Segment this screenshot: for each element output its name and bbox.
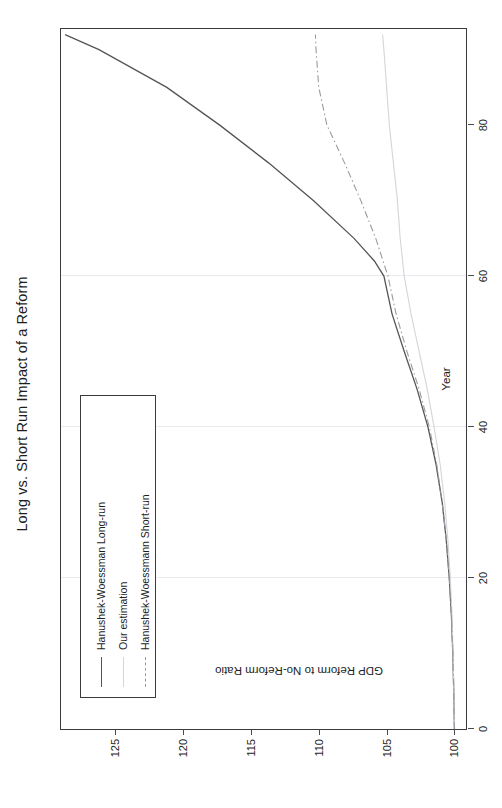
x-tick-label: 60 <box>477 270 489 282</box>
x-tick <box>468 577 474 578</box>
x-tick <box>468 426 474 427</box>
y-tick-label: 120 <box>177 739 189 757</box>
x-tick-label: 0 <box>477 726 489 732</box>
y-tick <box>115 729 116 735</box>
x-tick <box>468 124 474 125</box>
chart-page: Long vs. Short Run Impact of a Reform 02… <box>0 0 502 808</box>
y-tick <box>387 729 388 735</box>
legend-item: Our estimation <box>117 582 129 687</box>
legend-item: Hanushek-Woessmann Short-run <box>139 494 151 687</box>
y-tick-label: 100 <box>448 739 460 757</box>
y-tick <box>319 729 320 735</box>
chart-legend: Hanushek-Woessman Long-runOur estimation… <box>80 395 156 698</box>
chart-title: Long vs. Short Run Impact of a Reform <box>14 0 30 808</box>
y-tick-label: 115 <box>245 739 257 757</box>
x-tick-label: 20 <box>477 572 489 584</box>
x-tick <box>468 728 474 729</box>
y-tick-label: 105 <box>381 739 393 757</box>
x-tick-label: 40 <box>477 421 489 433</box>
series-line-2 <box>315 35 454 729</box>
y-tick-label: 110 <box>313 739 325 757</box>
y-tick-label: 125 <box>109 739 121 757</box>
x-tick <box>468 275 474 276</box>
x-axis-title: Year <box>440 28 452 730</box>
y-tick <box>183 729 184 735</box>
legend-item-label: Hanushek-Woessmann Short-run <box>139 494 151 650</box>
y-tick <box>251 729 252 735</box>
y-tick <box>454 729 455 735</box>
legend-item: Hanushek-Woessman Long-run <box>95 502 107 687</box>
legend-item-label: Hanushek-Woessman Long-run <box>95 502 107 650</box>
y-axis-title: GDP Reform to No-Reform Ratio <box>149 665 449 677</box>
rotated-chart-wrapper: Long vs. Short Run Impact of a Reform 02… <box>0 0 502 808</box>
x-tick-label: 80 <box>477 119 489 131</box>
legend-item-label: Our estimation <box>117 582 129 650</box>
